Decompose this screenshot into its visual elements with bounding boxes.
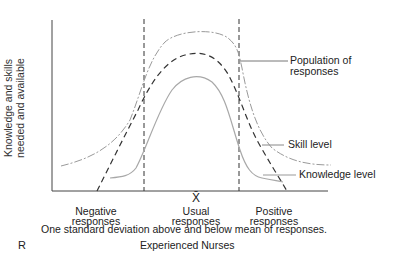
panel-letter: R — [18, 240, 26, 251]
caption: One standard deviation above and below m… — [41, 224, 327, 235]
subtitle: Experienced Nurses — [140, 240, 235, 251]
y-axis-label-line2: needed and available — [14, 58, 26, 158]
knowledge-level-label: Knowledge level — [299, 169, 375, 180]
mean-symbol: X̄ — [186, 193, 206, 204]
skill-level-label: Skill level — [288, 139, 332, 150]
y-axis-label-line1: Knowledge and skills — [2, 58, 14, 158]
population-label: Population of responses — [290, 55, 351, 77]
population-label-line2: responses — [290, 66, 351, 77]
knowledge-level-curve — [110, 77, 283, 182]
y-axis-label: Knowledge and skills needed and availabl… — [2, 58, 26, 158]
skill-level-curve — [97, 53, 287, 191]
